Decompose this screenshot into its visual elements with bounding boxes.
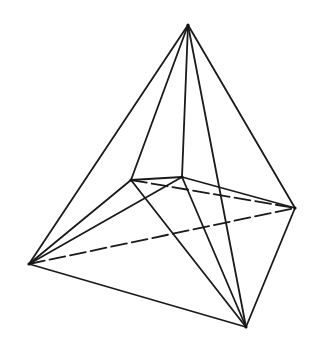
edge-right-to-bottom — [246, 208, 295, 327]
vertex-back-left — [129, 178, 132, 181]
vertex-right — [293, 206, 296, 209]
edge-apex-to-left — [29, 25, 188, 264]
edge-group — [29, 25, 295, 327]
edge-back-left-to-back-right — [131, 177, 182, 180]
edge-left-to-back-left — [29, 180, 131, 264]
edge-apex-to-bottom — [188, 25, 246, 327]
edge-apex-to-back-left — [131, 25, 188, 180]
edge-left-to-bottom — [29, 264, 246, 327]
edge-back-left-to-bottom — [131, 180, 246, 327]
edge-left-to-back-right — [29, 177, 182, 264]
polyhedron-diagram — [0, 0, 309, 342]
vertex-back-right — [180, 175, 183, 178]
edge-back-left-to-right — [131, 180, 295, 208]
vertex-bottom — [244, 325, 247, 328]
vertex-group — [27, 23, 296, 328]
vertex-left — [27, 262, 30, 265]
edge-apex-to-back-right — [182, 25, 188, 177]
edge-back-right-to-bottom — [182, 177, 246, 327]
edge-left-to-right — [29, 208, 295, 264]
vertex-apex — [186, 23, 189, 26]
edge-apex-to-right — [188, 25, 295, 208]
